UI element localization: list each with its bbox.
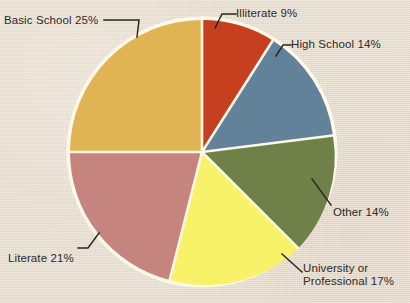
slice-label-university-line2: Professional 17% xyxy=(303,275,407,288)
slice-label-illiterate: Illiterate 9% xyxy=(236,7,297,20)
pie-chart-figure: Basic School 25% Illiterate 9% High Scho… xyxy=(0,0,410,303)
leader-line-basic-school xyxy=(104,20,139,37)
slice-label-university-professional: University or Professional 17% xyxy=(303,262,407,288)
slice-label-literate: Literate 21% xyxy=(8,252,74,265)
slice-label-basic-school: Basic School 25% xyxy=(4,14,98,27)
slice-label-other: Other 14% xyxy=(333,206,389,219)
slice-label-high-school: High School 14% xyxy=(291,38,381,51)
leader-line-university xyxy=(282,254,302,272)
slice-label-university-line1: University or xyxy=(303,262,407,275)
pie-slice-basic-school[interactable] xyxy=(70,20,202,152)
